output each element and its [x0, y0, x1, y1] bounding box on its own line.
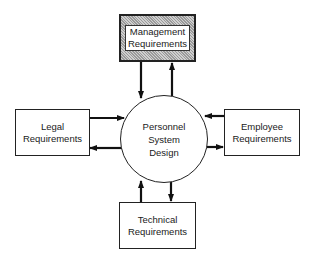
- legal-requirements-node: Legal Requirements: [15, 109, 90, 156]
- employee-requirements-node: Employee Requirements: [224, 109, 300, 156]
- center-label-line: Design: [149, 146, 179, 159]
- center-label-line: Personnel: [143, 120, 186, 133]
- center-label-line: System: [148, 133, 180, 146]
- node-label-line: Employee: [241, 121, 283, 133]
- management-requirements-node: Management Requirements: [119, 14, 196, 62]
- technical-requirements-node: Technical Requirements: [119, 202, 196, 249]
- node-label-line: Technical: [138, 214, 178, 226]
- node-label-line: Requirements: [128, 38, 187, 50]
- node-label-line: Requirements: [128, 226, 187, 238]
- node-label-line: Management: [128, 26, 187, 38]
- node-label-line: Requirements: [232, 133, 291, 145]
- node-label-line: Requirements: [23, 133, 82, 145]
- personnel-system-design-node: Personnel System Design: [120, 95, 208, 183]
- node-label-line: Legal: [41, 121, 64, 133]
- management-label-plate: Management Requirements: [125, 25, 190, 51]
